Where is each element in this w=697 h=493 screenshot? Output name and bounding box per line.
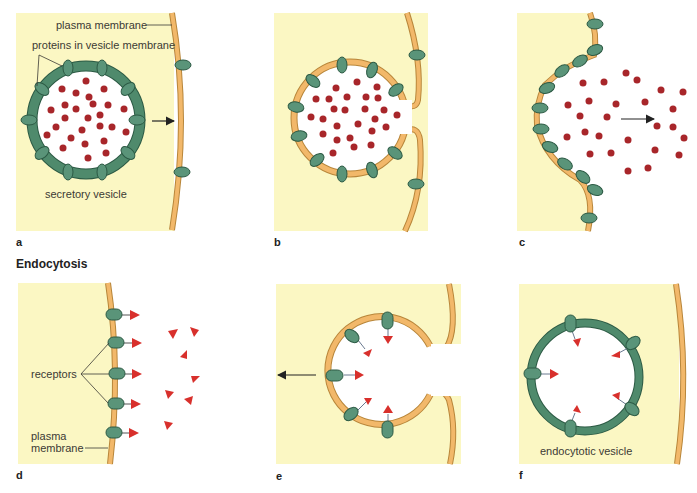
label-receptors: receptors — [31, 368, 77, 380]
membrane-protein — [174, 167, 190, 177]
panel-letter-f: f — [519, 469, 523, 481]
panel-letter-b: b — [274, 236, 281, 248]
panel-a: plasma membrane proteins in vesicle memb… — [16, 13, 191, 248]
panel-letter-d: d — [16, 469, 23, 481]
panel-letter-a: a — [16, 236, 23, 248]
cytoplasm-area — [517, 13, 595, 231]
panel-f: endocytotic vesicle f — [519, 284, 683, 481]
panel-letter-e: e — [276, 470, 282, 482]
panel-d: receptors plasma membrane d — [16, 283, 200, 481]
exocytosis-endocytosis-diagram: plasma membrane proteins in vesicle memb… — [0, 0, 697, 493]
ligands — [129, 310, 200, 438]
panel-e: e — [276, 284, 461, 482]
label-plasma-membrane: plasma membrane — [56, 19, 147, 31]
label-endocytotic-vesicle: endocytotic vesicle — [540, 445, 632, 457]
label-secretory-vesicle: secretory vesicle — [45, 188, 127, 200]
label-plasma: plasma — [31, 430, 67, 442]
label-proteins-in-vesicle-membrane: proteins in vesicle membrane — [32, 39, 175, 51]
panel-b: b — [274, 13, 428, 248]
label-membrane: membrane — [31, 442, 84, 454]
panel-letter-c: c — [519, 236, 525, 248]
membrane-protein — [175, 60, 191, 70]
section-title-endocytosis: Endocytosis — [16, 257, 88, 271]
panel-c: c — [517, 13, 688, 248]
released-cargo — [564, 70, 688, 175]
